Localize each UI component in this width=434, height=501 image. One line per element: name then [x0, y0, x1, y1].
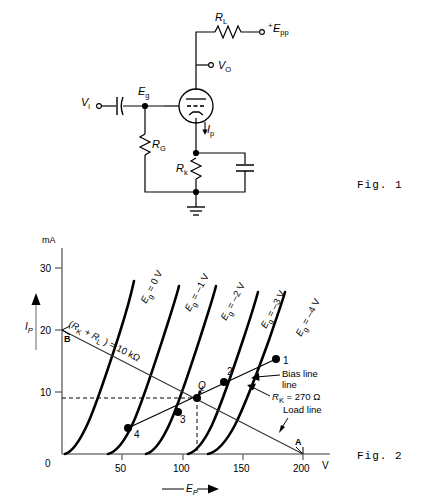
capacitor-icon	[236, 165, 254, 171]
operating-point-4-marker	[124, 424, 132, 432]
bypass-cap-top-wire	[196, 153, 245, 164]
grid-return-wire	[145, 155, 196, 192]
figure-1-caption: Fig. 1	[357, 179, 403, 191]
load-line-resistance-annotation: (RK + RL ) = 10 kΩ	[66, 318, 142, 366]
operating-point-2-marker	[220, 378, 228, 386]
figure-2-chart: 30 20 10 0 mA 50 100 150 200 V IP EP	[25, 235, 403, 497]
operating-point-3-label: 3	[180, 414, 186, 425]
bypass-cap-bottom-wire	[196, 171, 245, 192]
y-tick-label-20: 20	[40, 325, 52, 336]
x-tick-label-100: 100	[173, 463, 190, 474]
y-axis-unit-label: mA	[42, 235, 56, 245]
vacuum-tube-triode-icon	[179, 89, 213, 123]
figure-canvas: RL + Epp VO Ip Vi	[0, 0, 434, 501]
plate-current-label: Ip	[207, 123, 214, 138]
resistor-icon	[140, 134, 150, 155]
load-line-endpoint-b-label: B	[64, 334, 71, 344]
x-tick-label-50: 50	[115, 463, 127, 474]
terminal-node-icon	[209, 63, 214, 68]
operating-point-4-label: 4	[134, 429, 140, 440]
bias-line-label: Bias line	[282, 368, 318, 379]
x-axis-unit-label: V	[322, 460, 329, 471]
curve-label-eg-0v: Eg = 0 V	[138, 268, 167, 307]
operating-point-q-marker	[193, 394, 201, 402]
operating-point-q-label: Q	[198, 380, 206, 391]
resistor-icon	[215, 26, 260, 38]
load-line-label: Load line	[283, 404, 322, 415]
y-axis-direction-arrow	[32, 293, 41, 350]
operating-point-2-label: 2	[227, 366, 233, 377]
y-tick-label-30: 30	[40, 263, 52, 274]
load-line-callout-arrow	[279, 418, 288, 433]
operating-point-1-label: 1	[283, 355, 289, 366]
load-resistor-label: RL	[215, 11, 227, 26]
supply-label: Epp	[273, 22, 289, 37]
y-axis-ticks	[55, 268, 62, 392]
ground-icon	[187, 192, 205, 215]
grid-voltage-label: Eg	[138, 85, 150, 100]
figure-1-circuit: RL + Epp VO Ip Vi	[81, 11, 403, 215]
figure-2-caption: Fig. 2	[357, 450, 403, 462]
curve-label-eg-m2v: Eg = –2 V	[218, 280, 250, 323]
curve-eg-m2v	[146, 286, 216, 454]
capacitor-icon	[117, 97, 123, 115]
x-axis-title: EP	[186, 483, 198, 497]
figure-sheet: RL + Epp VO Ip Vi	[0, 0, 434, 501]
junction-dot-icon	[142, 103, 148, 109]
plate-wire	[196, 32, 215, 90]
y-tick-label-10: 10	[40, 387, 52, 398]
bias-line-label-line2: line	[282, 379, 297, 390]
x-axis-ticks	[122, 454, 303, 460]
y-tick-label-0: 0	[45, 458, 51, 469]
load-line-endpoint-a-label: A	[295, 437, 302, 447]
cathode-resistor-label: Rk	[176, 162, 188, 177]
input-label: Vi	[81, 96, 90, 111]
y-axis-title: IP	[25, 321, 33, 335]
grid-resistor-label: RG	[152, 138, 166, 153]
output-label: VO	[218, 59, 231, 74]
cathode-resistance-label: RK = 270 Ω	[272, 391, 320, 405]
curve-label-eg-m4v: Eg = –4 V	[293, 296, 325, 339]
resistor-icon	[191, 158, 201, 179]
terminal-node-icon	[97, 104, 102, 109]
bias-line	[128, 359, 276, 428]
curve-eg-0v	[65, 281, 134, 454]
x-tick-label-150: 150	[233, 463, 250, 474]
operating-point-1-marker	[272, 355, 280, 363]
x-tick-label-200: 200	[293, 463, 310, 474]
terminal-node-icon	[260, 30, 265, 35]
